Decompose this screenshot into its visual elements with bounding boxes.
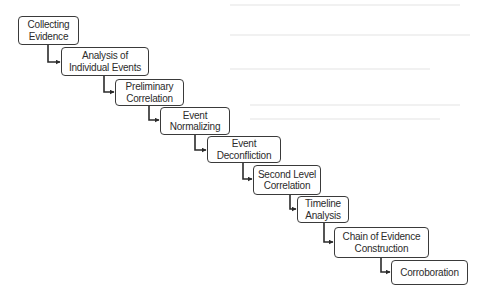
step-corroboration: Corroboration [391,260,468,285]
step-event-deconfliction: Event Deconfliction [207,136,281,163]
connector-arrow [381,257,390,272]
step-label: Corroboration [400,267,459,279]
step-collecting-evidence: Collecting Evidence [18,16,79,45]
step-timeline-analysis: Timeline Analysis [297,196,349,223]
step-label: Analysis of Individual Events [69,50,141,73]
step-analysis-of-individual-events: Analysis of Individual Events [61,47,149,76]
step-label: Chain of Evidence Construction [343,231,421,254]
step-second-level-correlation: Second Level Correlation [253,165,321,195]
step-label: Second Level Correlation [258,169,316,192]
connector-arrow [104,75,114,92]
connector-arrow [243,162,252,179]
connector-arrow [149,105,159,120]
step-label: Collecting Evidence [28,19,70,42]
step-event-normalizing: Event Normalizing [160,107,230,135]
connector-arrow [290,194,296,209]
connector-arrow [195,134,206,150]
connector-arrow [324,222,333,242]
step-label: Preliminary Correlation [126,81,174,104]
step-chain-of-evidence-construction: Chain of Evidence Construction [334,227,429,258]
process-diagram: Collecting Evidence Analysis of Individu… [0,0,481,296]
step-label: Timeline Analysis [305,198,341,221]
step-label: Event Normalizing [170,110,221,133]
step-preliminary-correlation: Preliminary Correlation [115,79,184,106]
step-label: Event Deconfliction [217,138,272,161]
connector-arrow [48,44,60,62]
